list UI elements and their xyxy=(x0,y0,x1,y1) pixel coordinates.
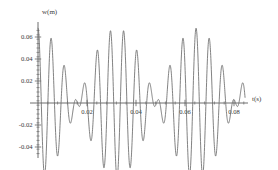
waveform-curve xyxy=(38,28,245,170)
y-tick-label: 0.04 xyxy=(21,55,33,62)
y-tick-label: -0.04 xyxy=(19,143,33,150)
y-tick-label: 0.06 xyxy=(21,33,33,40)
chart-figure: 0.020.040.060.08 0.060.040.02-0.02-0.04 … xyxy=(0,0,278,170)
x-tick-label: 0.02 xyxy=(81,108,93,115)
y-tick-label: -0.02 xyxy=(19,121,33,128)
x-axis-label: t(s) xyxy=(252,95,262,103)
x-tick-label: 0.06 xyxy=(179,108,191,115)
x-tick-label: 0.08 xyxy=(228,108,240,115)
y-tick-label: 0.02 xyxy=(21,77,33,84)
waveform-plot: 0.020.040.060.08 0.060.040.02-0.02-0.04 … xyxy=(0,0,278,170)
y-axis-tick-labels: 0.060.040.02-0.02-0.04 xyxy=(19,33,33,150)
y-axis-label: w(m) xyxy=(42,8,58,16)
